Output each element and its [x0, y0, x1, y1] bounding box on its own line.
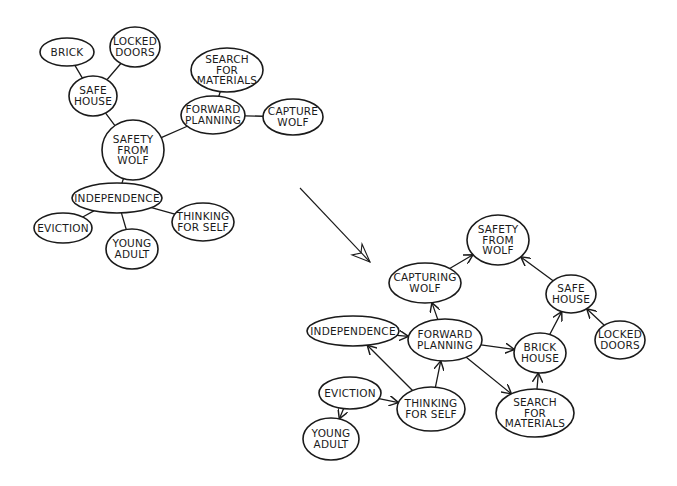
- before-mind-map: BRICKLOCKEDDOORSSAFEHOUSESEARCHFORMATERI…: [34, 27, 323, 269]
- arrow-thinking_r-to-forward_r: [435, 361, 440, 387]
- node-label: MATERIALS: [197, 74, 258, 86]
- link-independence_l-to-thinking_l: [152, 208, 175, 214]
- arrow-brick_r-to-safehouse_r: [550, 312, 562, 335]
- node-label: HOUSE: [521, 352, 559, 364]
- node-safety-l: SAFETYFROMWOLF: [102, 120, 164, 180]
- node-independence-l: INDEPENDENCE: [72, 183, 162, 213]
- diagram-canvas: BRICKLOCKEDDOORSSAFEHOUSESEARCHFORMATERI…: [0, 0, 677, 486]
- node-label: INDEPENDENCE: [74, 192, 159, 204]
- node-search-r: SEARCHFORMATERIALS: [496, 389, 574, 437]
- node-label: EVICTION: [324, 387, 375, 399]
- node-label: FOR SELF: [177, 221, 229, 233]
- node-thinking-l: THINKINGFOR SELF: [172, 203, 234, 241]
- node-label: MATERIALS: [505, 417, 566, 429]
- link-forward_l-to-safety_l: [161, 126, 187, 137]
- arrow-search_r-to-brick_r: [537, 373, 538, 389]
- link-brick_l-to-safehouse_l: [75, 65, 82, 78]
- node-brick-r: BRICKHOUSE: [514, 333, 566, 373]
- node-young-l: YOUNGADULT: [106, 229, 158, 269]
- node-label: WOLF: [117, 154, 148, 166]
- link-independence_l-to-eviction_l: [83, 211, 94, 217]
- link-locked_l-to-safehouse_l: [107, 63, 121, 79]
- before-map-nodes: BRICKLOCKEDDOORSSAFEHOUSESEARCHFORMATERI…: [34, 27, 323, 269]
- node-label: HOUSE: [552, 293, 590, 305]
- arrow-eviction_r-to-thinking_r: [379, 399, 399, 403]
- node-eviction-l: EVICTION: [34, 213, 92, 243]
- link-independence_l-to-young_l: [121, 213, 126, 230]
- node-label: ADULT: [115, 248, 150, 260]
- node-capturing-r: CAPTURINGWOLF: [389, 263, 461, 303]
- node-search-l: SEARCHFORMATERIALS: [191, 48, 263, 92]
- node-forward-l: FORWARDPLANNING: [181, 96, 245, 134]
- node-label: DOORS: [600, 339, 640, 351]
- link-safehouse_l-to-safety_l: [106, 113, 115, 126]
- arrow-forward_r-to-brick_r: [481, 345, 514, 350]
- node-locked-r: LOCKEDDOORS: [595, 321, 645, 359]
- node-label: HOUSE: [74, 95, 112, 107]
- node-independence-r: INDEPENDENCE: [307, 316, 399, 346]
- arrow-forward_r-to-capturing_r: [432, 303, 438, 320]
- transformation-arrow: [300, 188, 370, 262]
- node-eviction-r: EVICTION: [319, 377, 381, 409]
- after-causal-map: SAFETYFROMWOLFCAPTURINGWOLFSAFEHOUSEINDE…: [303, 215, 645, 460]
- node-label: WOLF: [277, 116, 308, 128]
- transform-arrow-shaft: [300, 188, 370, 262]
- node-safehouse-r: SAFEHOUSE: [546, 275, 596, 313]
- after-map-nodes: SAFETYFROMWOLFCAPTURINGWOLFSAFEHOUSEINDE…: [303, 215, 645, 460]
- arrow-forward_r-to-search_r: [466, 357, 511, 394]
- node-label: INDEPENDENCE: [310, 325, 395, 337]
- node-label: PLANNING: [417, 339, 473, 351]
- node-locked-l: LOCKEDDOORS: [110, 27, 160, 67]
- arrow-capturing_r-to-safety_r: [450, 255, 473, 269]
- node-thinking-r: THINKINGFOR SELF: [397, 387, 465, 431]
- node-capture-l: CAPTUREWOLF: [263, 99, 323, 135]
- arrow-locked_r-to-safehouse_r: [587, 309, 605, 325]
- node-label: ADULT: [314, 438, 349, 450]
- node-forward-r: FORWARDPLANNING: [408, 319, 482, 361]
- node-young-r: YOUNGADULT: [303, 418, 359, 460]
- node-safehouse-l: SAFEHOUSE: [69, 76, 117, 116]
- node-label: PLANNING: [185, 114, 241, 126]
- arrow-independence_r-to-forward_r: [397, 335, 408, 336]
- node-label: WOLF: [482, 244, 513, 256]
- node-label: FOR SELF: [405, 408, 457, 420]
- node-label: EVICTION: [37, 222, 88, 234]
- arrow-safehouse_r-to-safety_r: [521, 257, 553, 281]
- node-brick-l: BRICK: [40, 38, 94, 66]
- node-label: DOORS: [115, 46, 155, 58]
- node-safety-r: SAFETYFROMWOLF: [467, 215, 529, 265]
- arrow-eviction_r-to-young_r: [339, 409, 343, 419]
- node-label: BRICK: [51, 46, 85, 58]
- node-label: WOLF: [409, 282, 440, 294]
